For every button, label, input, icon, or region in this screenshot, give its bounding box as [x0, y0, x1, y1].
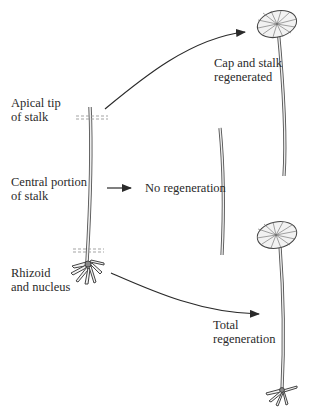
- rhizoid-nucleus-icon: [71, 260, 104, 284]
- cap-and-stalk-plant-icon: [254, 6, 299, 176]
- arrow-rhizoid-icon: [111, 273, 259, 314]
- whole-plant-icon: [255, 218, 300, 406]
- nucleus-icon: [85, 261, 91, 267]
- label-cap-stalk-regenerated: Cap and stalk regenerated: [214, 56, 282, 84]
- label-no-regeneration: No regeneration: [145, 181, 226, 195]
- label-rhizoid-nucleus: Rhizoid and nucleus: [11, 266, 70, 294]
- label-apical-tip: Apical tip of stalk: [11, 96, 61, 124]
- label-total-regeneration: Total regeneration: [213, 318, 275, 346]
- label-central-portion: Central portion of stalk: [11, 175, 87, 203]
